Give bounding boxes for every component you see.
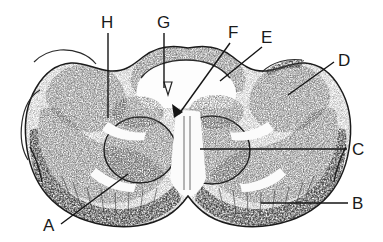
label-c: C bbox=[352, 140, 364, 159]
figure-root: A B C D E F G H bbox=[0, 0, 383, 242]
median-fissure bbox=[170, 111, 206, 199]
label-h: H bbox=[101, 13, 113, 32]
label-e: E bbox=[261, 28, 272, 47]
label-d: D bbox=[338, 51, 350, 70]
label-f: F bbox=[228, 23, 238, 42]
label-a: A bbox=[43, 216, 55, 235]
label-b: B bbox=[352, 194, 363, 213]
label-g: G bbox=[157, 13, 170, 32]
specimen-body bbox=[0, 30, 383, 242]
specimen-illustration bbox=[0, 30, 383, 242]
cross-section-figure: A B C D E F G H bbox=[0, 0, 383, 242]
